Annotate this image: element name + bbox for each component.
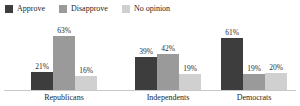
legend-item-approve[interactable]: Approve (5, 5, 45, 13)
bar-republicans-no-opinion[interactable] (75, 76, 97, 90)
bar-republicans-approve[interactable] (31, 72, 53, 90)
category-label-democrats: Democrats (202, 93, 300, 102)
bar-value-independents-no-opinion: 19% (183, 65, 197, 73)
bars-democrats: 61% 19% 20% (202, 18, 300, 90)
bar-value-democrats-approve: 61% (225, 29, 239, 37)
bar-value-republicans-disapprove: 63% (57, 27, 71, 35)
bar-value-democrats-no-opinion: 20% (269, 64, 283, 72)
bar-republicans-disapprove[interactable] (53, 36, 75, 90)
bar-independents-approve[interactable] (135, 57, 157, 90)
bar-wrap-independents-approve[interactable]: 39% (135, 18, 157, 90)
legend-item-disapprove[interactable]: Disapprove (59, 5, 108, 13)
bar-wrap-democrats-no-opinion[interactable]: 20% (265, 18, 287, 90)
bar-group-republicans: 21% 63% 16% Republicans (12, 18, 116, 106)
bar-value-independents-approve: 39% (139, 48, 153, 56)
bar-wrap-republicans-no-opinion[interactable]: 16% (75, 18, 97, 90)
bar-group-democrats: 61% 19% 20% Democrats (202, 18, 300, 106)
legend-label-no-opinion: No opinion (134, 5, 170, 13)
bar-wrap-democrats-disapprove[interactable]: 19% (243, 18, 265, 90)
legend-swatch-no-opinion (122, 5, 130, 13)
legend-swatch-disapprove (59, 5, 67, 13)
bar-value-democrats-disapprove: 19% (247, 65, 261, 73)
category-label-republicans: Republicans (12, 93, 116, 102)
bar-wrap-independents-disapprove[interactable]: 42% (157, 18, 179, 90)
bar-independents-no-opinion[interactable] (179, 74, 201, 90)
grouped-bar-chart: Approve Disapprove No opinion 21% 63% (0, 0, 300, 106)
bar-value-republicans-no-opinion: 16% (79, 67, 93, 75)
bar-wrap-democrats-approve[interactable]: 61% (221, 18, 243, 90)
plot-area: 21% 63% 16% Republicans 39% (0, 18, 300, 106)
legend-swatch-approve (5, 5, 13, 13)
bar-value-republicans-approve: 21% (35, 63, 49, 71)
bar-wrap-republicans-disapprove[interactable]: 63% (53, 18, 75, 90)
chart-legend: Approve Disapprove No opinion (0, 0, 300, 18)
legend-label-approve: Approve (17, 5, 45, 13)
legend-item-no-opinion[interactable]: No opinion (122, 5, 170, 13)
legend-label-disapprove: Disapprove (71, 5, 108, 13)
bars-republicans: 21% 63% 16% (12, 18, 116, 90)
bar-democrats-approve[interactable] (221, 38, 243, 90)
bar-democrats-disapprove[interactable] (243, 74, 265, 90)
bar-value-independents-disapprove: 42% (161, 45, 175, 53)
bar-wrap-independents-no-opinion[interactable]: 19% (179, 18, 201, 90)
bar-wrap-republicans-approve[interactable]: 21% (31, 18, 53, 90)
bar-independents-disapprove[interactable] (157, 54, 179, 90)
bar-democrats-no-opinion[interactable] (265, 73, 287, 90)
